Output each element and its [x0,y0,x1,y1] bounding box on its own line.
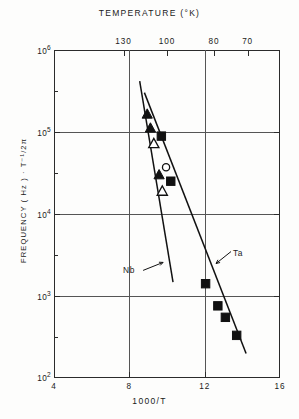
tick-label-y-1e3: 103 [37,290,54,302]
data-point-ta [214,302,222,310]
data-point-ta [201,280,209,288]
tick-label-top-80: 80 [209,37,220,46]
tick-label-y-1e5: 105 [37,126,54,138]
data-point-ta [221,313,229,321]
data-point-nb-open [157,186,167,195]
tick-label-bottom-12: 12 [199,382,210,391]
chart-x-axis-label: 1000/T [0,396,299,406]
chart-y-axis-label: FREQUENCY ( Hz ) · T⁻¹/2π [19,116,28,286]
tick-label-y-1e6: 106 [37,44,54,56]
data-point-ta-open [162,164,169,171]
tick-label-y-1e4: 104 [37,208,54,220]
tick-label-top-130: 130 [115,37,131,46]
leader-nb [143,262,163,270]
chart-top-axis-title: TEMPERATURE (°K) [0,8,299,18]
tick-label-top-70: 70 [242,37,253,46]
tick-label-bottom-4: 4 [51,382,56,391]
tick-label-bottom-8: 8 [127,382,132,391]
figure-root: TEMPERATURE (°K) FREQUENCY ( Hz ) · T⁻¹/… [0,0,299,419]
annotation-ta: Ta [233,248,243,258]
tick-label-y-1e2: 102 [37,371,54,383]
tick-label-top-100: 100 [159,37,175,46]
data-point-ta [157,132,165,140]
leader-ta [216,252,231,264]
data-point-ta [167,177,175,185]
tick-label-bottom-16: 16 [275,382,286,391]
annotation-nb: Nb [123,265,135,275]
data-point-ta [232,331,240,339]
plot-area: 130 100 80 70 4 8 12 16 106 105 104 103 … [54,50,280,378]
data-layer [54,50,280,378]
